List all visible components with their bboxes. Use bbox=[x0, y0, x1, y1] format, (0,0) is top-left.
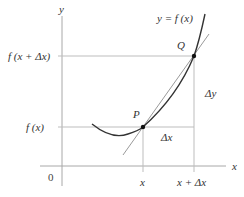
y-tick-f-x: f (x) bbox=[26, 121, 44, 134]
point-p-label: P bbox=[132, 108, 140, 120]
x-axis-label: x bbox=[231, 160, 237, 172]
origin-label: 0 bbox=[48, 171, 54, 183]
y-tick-f-x-plus-dx: f (x + Δx) bbox=[8, 50, 51, 63]
point-p bbox=[141, 125, 145, 129]
x-tick-x: x bbox=[139, 176, 145, 188]
function-curve bbox=[92, 14, 205, 136]
curve-label: y = f (x) bbox=[156, 12, 193, 25]
derivative-diagram: y x 0 y = f (x) Q P f (x + Δx) f (x) x x… bbox=[0, 0, 244, 197]
delta-y-label: Δy bbox=[204, 87, 216, 99]
y-axis-label: y bbox=[58, 3, 64, 15]
point-q-label: Q bbox=[177, 39, 185, 51]
delta-x-label: Δx bbox=[160, 131, 172, 143]
point-q bbox=[192, 54, 196, 58]
x-tick-x-plus-dx: x + Δx bbox=[176, 176, 206, 188]
